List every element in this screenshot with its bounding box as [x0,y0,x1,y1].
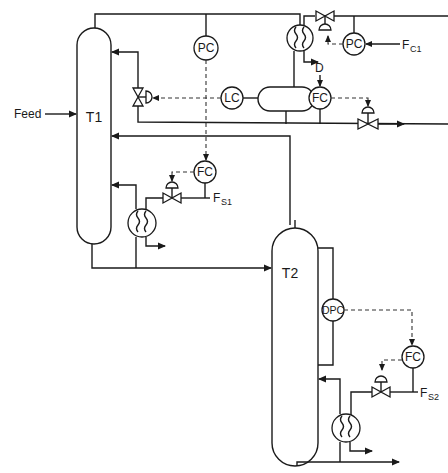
lc-drum-controller[interactable]: LC [221,87,258,109]
reflux-drum [258,87,314,124]
t2-bottoms-line [297,462,399,466]
pc-column-controller[interactable]: PC [194,36,218,60]
fc-distillate-controller[interactable]: FC [309,87,368,124]
svg-text:FC: FC [312,91,328,105]
steam-valve-1[interactable] [163,182,181,203]
svg-text:LC: LC [224,91,240,105]
steam-1-line: F S1 [146,191,232,212]
coolant-flow-label: F C1 [402,38,422,54]
svg-text:PC: PC [346,37,363,51]
fc-reboiler1-controller[interactable]: FC [172,161,216,198]
svg-text:F: F [402,38,409,52]
svg-text:C1: C1 [410,44,422,54]
reflux-valve[interactable] [133,88,152,106]
process-diagram: T1 Feed PC F C1 [0,0,448,473]
steam-2-line: F S2 [351,386,439,415]
svg-text:FC: FC [197,165,213,179]
svg-text:DPC: DPC [322,304,345,316]
svg-text:PC: PC [198,41,215,55]
column-t1-label: T1 [86,109,103,125]
dpc-column2-controller[interactable]: DPC [318,248,412,365]
column-t2-label: T2 [282,265,299,281]
feed-stream: Feed [14,107,76,121]
fc-reboiler2-controller[interactable]: FC [382,346,424,392]
pc-condenser-controller[interactable]: PC [328,16,400,55]
t1-bottoms-line [92,244,271,268]
svg-text:S1: S1 [221,197,232,207]
steam-valve-2[interactable] [372,376,390,397]
svg-text:D: D [315,61,324,75]
feed-label: Feed [14,107,41,121]
column-t2: T2 [272,220,318,466]
overhead-vapor-line [95,14,300,36]
svg-text:F: F [420,386,427,400]
svg-text:F: F [213,191,220,205]
distillate-setpoint: D [315,61,324,86]
column-t1: T1 [77,28,111,244]
svg-text:S2: S2 [428,392,439,402]
condenser [287,16,318,88]
distillate-valve[interactable] [358,107,378,129]
svg-text:FC: FC [405,350,421,364]
coolant-valve[interactable] [316,11,334,30]
